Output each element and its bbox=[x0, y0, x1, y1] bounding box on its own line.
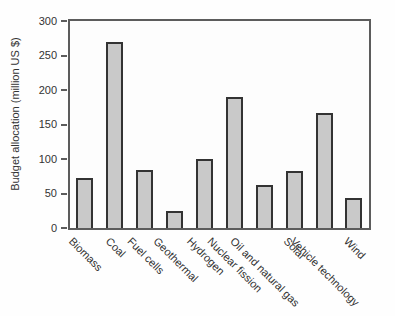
bar-nuclear-fission bbox=[226, 97, 243, 228]
bar-vehicle-technology bbox=[316, 113, 333, 228]
y-tick-label: 100 bbox=[29, 153, 57, 166]
y-tick-label: 0 bbox=[29, 222, 57, 235]
y-tick-mark bbox=[61, 124, 67, 126]
bar-fuel-cells bbox=[136, 170, 153, 228]
y-tick-mark bbox=[61, 20, 67, 22]
y-tick-label: 50 bbox=[29, 187, 57, 200]
bar-geothermal bbox=[166, 211, 183, 228]
y-tick-mark bbox=[61, 89, 67, 91]
x-tick-label: Coal bbox=[103, 235, 127, 259]
y-tick-label: 150 bbox=[29, 118, 57, 131]
y-tick-label: 200 bbox=[29, 84, 57, 97]
bar-solar bbox=[286, 171, 303, 228]
x-tick-label: Wind bbox=[342, 235, 368, 261]
bars-container bbox=[70, 21, 369, 228]
y-tick-mark bbox=[61, 158, 67, 160]
bar-chart: Budget allocation (million US $) 0501001… bbox=[0, 0, 395, 316]
bar-wind bbox=[345, 198, 362, 228]
y-tick-mark bbox=[61, 55, 67, 57]
y-tick-label: 250 bbox=[29, 49, 57, 62]
y-tick-label: 300 bbox=[29, 15, 57, 28]
y-axis-label: Budget allocation (million US $) bbox=[9, 24, 23, 204]
y-tick-mark bbox=[61, 227, 67, 229]
bar-biomass bbox=[76, 178, 93, 228]
plot-area bbox=[68, 19, 371, 230]
bar-coal bbox=[106, 42, 123, 228]
bar-hydrogen bbox=[196, 159, 213, 228]
y-tick-mark bbox=[61, 193, 67, 195]
bar-oil-and-natural-gas bbox=[256, 185, 273, 228]
x-tick-label: Biomass bbox=[67, 235, 105, 273]
